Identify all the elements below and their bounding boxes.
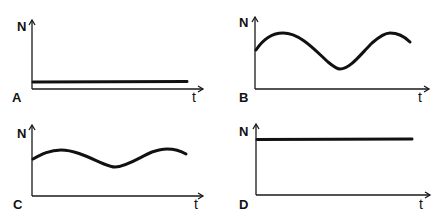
panel-d: N t D: [239, 124, 430, 212]
population-curve: [33, 82, 187, 83]
panel-c: N t C: [13, 125, 203, 212]
panel-letter: B: [239, 90, 248, 105]
x-axis-label: t: [418, 89, 422, 105]
population-curve: [257, 139, 412, 140]
y-axis-label: N: [17, 126, 26, 141]
y-axis-label: N: [239, 15, 248, 30]
panel-b: N t B: [239, 15, 429, 105]
panel-a: N t A: [12, 19, 203, 105]
panel-letter: C: [13, 197, 23, 212]
y-axis-label: N: [17, 19, 26, 34]
population-graphs-diagram: N t A N t B N t C N t D: [0, 0, 439, 215]
x-axis-label: t: [192, 89, 196, 105]
panel-letter: A: [12, 90, 22, 105]
panel-letter: D: [239, 197, 248, 212]
x-axis-label: t: [419, 196, 423, 212]
y-axis-label: N: [239, 124, 248, 139]
population-curve: [33, 149, 186, 167]
population-curve: [256, 33, 410, 69]
x-axis-label: t: [194, 196, 198, 212]
